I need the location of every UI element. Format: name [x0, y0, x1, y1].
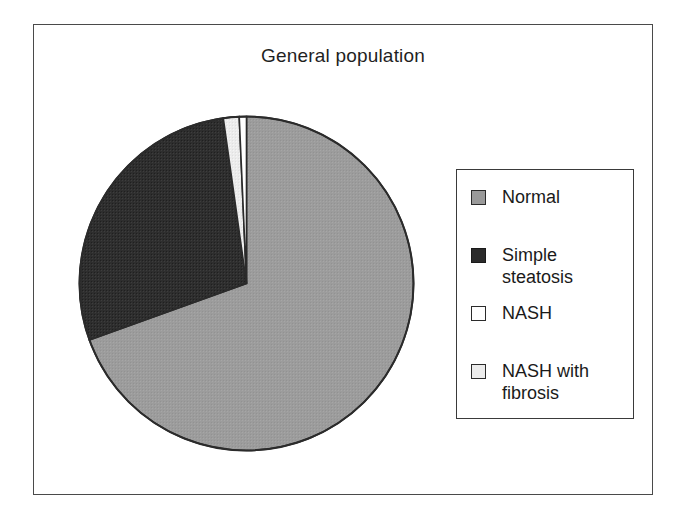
legend-item-nash[interactable]: NASH	[471, 302, 633, 360]
chart-title: General population	[34, 45, 652, 67]
legend: Normal Simple steatosis NASH NASH with f…	[456, 169, 634, 419]
pie-slice-group	[79, 117, 413, 451]
legend-swatch-simple-steatosis	[471, 248, 486, 263]
legend-item-nash-with-fibrosis[interactable]: NASH with fibrosis	[471, 360, 633, 418]
legend-swatch-nash-with-fibrosis	[471, 364, 486, 379]
legend-label-simple-steatosis: Simple steatosis	[502, 244, 633, 288]
legend-swatch-normal	[471, 190, 486, 205]
legend-item-simple-steatosis[interactable]: Simple steatosis	[471, 244, 633, 302]
legend-label-normal: Normal	[502, 186, 560, 208]
pie-chart	[74, 111, 419, 456]
legend-swatch-nash	[471, 306, 486, 321]
legend-item-normal[interactable]: Normal	[471, 186, 633, 244]
pie-chart-svg	[74, 111, 419, 456]
legend-label-nash: NASH	[502, 302, 552, 324]
legend-label-nash-with-fibrosis: NASH with fibrosis	[502, 360, 589, 404]
figure-frame: General population	[33, 24, 653, 495]
